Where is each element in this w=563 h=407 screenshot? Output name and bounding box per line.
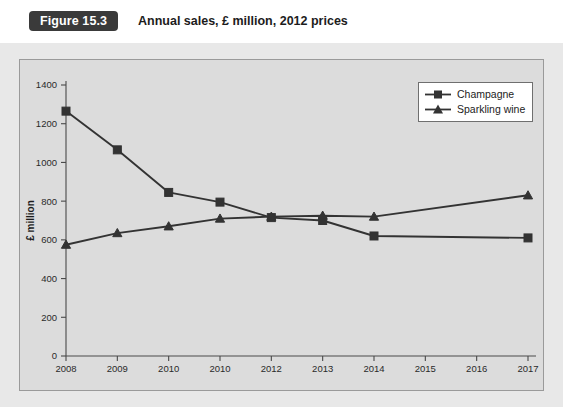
data-point-marker (524, 234, 532, 242)
legend-item-sparkling-wine: Sparkling wine (424, 102, 525, 117)
data-point-marker (165, 188, 173, 196)
svg-text:0: 0 (52, 350, 57, 361)
svg-text:2010: 2010 (158, 363, 179, 374)
svg-text:2008: 2008 (55, 363, 76, 374)
figure-page: Figure 15.3 Annual sales, £ million, 201… (0, 0, 563, 407)
chart-axes: 0200400600800100012001400200820092010201… (25, 79, 539, 374)
figure-header: Figure 15.3 Annual sales, £ million, 201… (0, 0, 563, 43)
figure-title: Annual sales, £ million, 2012 prices (138, 12, 348, 30)
svg-text:2017: 2017 (517, 363, 538, 374)
svg-text:1200: 1200 (36, 118, 57, 129)
svg-text:£ million: £ million (25, 200, 36, 241)
chart-legend: Champagne Sparkling wine (418, 82, 533, 122)
svg-text:1000: 1000 (36, 157, 57, 168)
svg-text:200: 200 (41, 312, 57, 323)
legend-item-champagne: Champagne (424, 87, 525, 102)
data-point-marker (113, 146, 121, 154)
svg-text:2014: 2014 (363, 363, 384, 374)
data-point-marker (216, 198, 224, 206)
svg-text:1400: 1400 (36, 79, 57, 90)
svg-text:400: 400 (41, 273, 57, 284)
svg-text:800: 800 (41, 196, 57, 207)
chart-series (61, 107, 532, 248)
triangle-marker-icon (424, 103, 452, 116)
square-marker-icon (424, 88, 452, 101)
legend-label: Champagne (457, 88, 514, 101)
svg-text:2013: 2013 (312, 363, 333, 374)
svg-text:2012: 2012 (261, 363, 282, 374)
data-point-marker (62, 107, 70, 115)
svg-text:600: 600 (41, 234, 57, 245)
data-point-marker (370, 232, 378, 240)
svg-text:2016: 2016 (466, 363, 487, 374)
legend-label: Sparkling wine (457, 103, 525, 116)
svg-text:2010: 2010 (209, 363, 230, 374)
figure-panel: 0200400600800100012001400200820092010201… (0, 43, 563, 407)
svg-text:2015: 2015 (415, 363, 436, 374)
svg-text:2009: 2009 (107, 363, 128, 374)
series-line-champagne (66, 111, 528, 238)
chart-frame: 0200400600800100012001400200820092010201… (19, 59, 544, 391)
figure-number-badge: Figure 15.3 (29, 11, 118, 31)
